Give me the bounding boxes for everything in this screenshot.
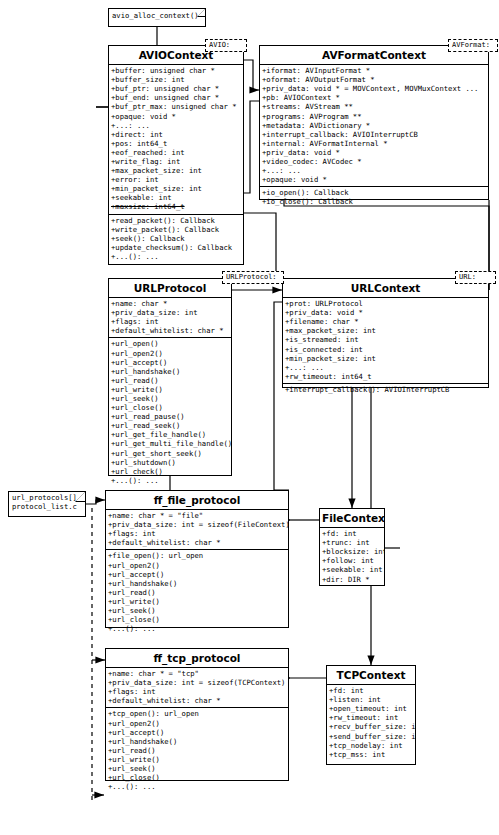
class-attribute: +flags: int <box>109 317 231 326</box>
class-aviocontext[interactable]: AVIOContext+buffer: unsigned char *+buff… <box>108 45 244 265</box>
note-fold-inner-icon <box>198 8 206 16</box>
class-operation: +read_packet(): Callback <box>109 216 243 225</box>
class-attribute: +direct: int <box>109 130 243 139</box>
class-operation: +url_get_file_handle() <box>109 430 231 439</box>
class-compartment-attributes: +name: char * = "tcp"+priv_data_size: in… <box>106 668 288 708</box>
class-attribute: +buf_ptr: unsigned char * <box>109 84 243 93</box>
class-compartment-operations: +url_open()+url_open2()+url_accept()+url… <box>109 338 231 487</box>
class-attribute: +buffer_size: int <box>109 75 243 84</box>
class-attribute: +name: char * = "file" <box>106 511 288 520</box>
note-fold-inner-icon <box>76 491 86 501</box>
class-attribute: +opaque: void * <box>109 112 243 121</box>
class-attribute: +listen: int <box>327 695 415 704</box>
class-attribute: +maxsize: int64_t <box>109 202 243 211</box>
url-protocols-note: url_protocols[] protocol_list.c <box>8 491 86 517</box>
class-operation: +url_check() <box>109 467 231 476</box>
class-attribute: +interrupt_callback: AVIOInterruptCB <box>260 130 488 139</box>
class-compartment-attributes: +name: char * = "file"+priv_data_size: i… <box>106 510 288 550</box>
class-attribute: +pos: int64_t <box>109 139 243 148</box>
class-operation: +io_open(): Callback <box>260 188 488 197</box>
class-attribute: +blocksize: int <box>320 547 384 556</box>
class-filecontext[interactable]: FileContext+fd: int+trunc: int+blocksize… <box>319 508 385 586</box>
class-operation: +url_close() <box>106 615 288 624</box>
tag-label: AVIO: <box>209 41 230 49</box>
class-title: ff_tcp_protocol <box>106 649 288 668</box>
class-attribute: +streams: AVStream ** <box>260 102 488 111</box>
class-attribute: +buffer: unsigned char * <box>109 66 243 75</box>
class-operation: +tcp_open(): url_open <box>106 709 288 718</box>
note-line: protocol_list.c <box>12 502 82 511</box>
class-attribute: +name: char * = "tcp" <box>106 669 288 678</box>
class-operation: +url_get_multi_file_handle() <box>109 439 231 448</box>
class-attribute: +send_buffer_size: int <box>327 732 415 741</box>
class-compartment-attributes: +name: char *+priv_data_size: int+flags:… <box>109 298 231 338</box>
class-operation: +url_handshake() <box>106 579 288 588</box>
class-avformatcontext[interactable]: AVFormatContext+iformat: AVInputFormat *… <box>259 45 489 200</box>
class-attribute: +priv_data: void * = MOVContext, MOVMuxC… <box>260 84 488 93</box>
class-ff-file-protocol[interactable]: ff_file_protocol+name: char * = "file"+p… <box>105 490 289 628</box>
class-operation: +url_write() <box>106 597 288 606</box>
class-attribute: +...: ... <box>260 166 488 175</box>
class-attribute: +min_packet_size: int <box>283 354 488 363</box>
class-compartment-operations: +io_open(): Callback+io_close(): Callbac… <box>260 187 488 208</box>
class-title: URLProtocol <box>109 279 231 298</box>
class-compartment-operations: +read_packet(): Callback+write_packet():… <box>109 215 243 263</box>
class-urlcontext[interactable]: URLContext+prot: URLProtocol+priv_data: … <box>282 278 489 388</box>
class-compartment-attributes: +prot: URLProtocol+priv_data: void *+fil… <box>283 298 488 384</box>
class-attribute: +default_whitelist: char * <box>106 538 288 547</box>
class-attribute: +pb: AVIOContext * <box>260 93 488 102</box>
class-attribute: +internal: AVFormatInternal * <box>260 139 488 148</box>
class-attribute: +seekable: int <box>320 565 384 574</box>
note-line: url_protocols[] <box>12 493 82 502</box>
class-attribute: +metadata: AVDictionary * <box>260 121 488 130</box>
class-operation: +url_read() <box>109 376 231 385</box>
class-operation: +url_open() <box>109 339 231 348</box>
class-attribute: +default_whitelist: char * <box>106 696 288 705</box>
class-operation: +url_close() <box>109 403 231 412</box>
class-operation: +url_get_short_seek() <box>109 449 231 458</box>
class-operation: +interrupt_callback(): AVIOInterruptCB <box>283 385 488 394</box>
class-attribute: +video_codec: AVCodec * <box>260 157 488 166</box>
class-operation: +url_shutdown() <box>109 458 231 467</box>
class-operation: +url_seek() <box>106 606 288 615</box>
avformat-package-tag: AVFormat: <box>448 39 498 52</box>
class-attribute: +flags: int <box>106 529 288 538</box>
class-attribute: +priv_data: void * <box>283 308 488 317</box>
class-attribute: +tcp_nodelay: int <box>327 741 415 750</box>
class-operation: +...(): ... <box>106 624 288 633</box>
class-operation: +file_open(): url_open <box>106 551 288 560</box>
class-attribute: +trunc: int <box>320 538 384 547</box>
class-compartment-attributes: +buffer: unsigned char *+buffer_size: in… <box>109 65 243 215</box>
class-attribute: +max_packet_size: int <box>109 166 243 175</box>
avio-package-tag: AVIO: <box>205 39 247 52</box>
class-compartment-operations: +tcp_open(): url_open+url_open2()+url_ac… <box>106 708 288 793</box>
class-operation: +url_close() <box>106 773 288 782</box>
class-tcpcontext[interactable]: TCPContext+fd: int+listen: int+open_time… <box>326 665 416 765</box>
class-operation: +url_handshake() <box>109 367 231 376</box>
class-operation: +url_accept() <box>106 570 288 579</box>
class-operation: +url_accept() <box>106 728 288 737</box>
class-operation: +...(): ... <box>109 252 243 261</box>
class-attribute: +iformat: AVInputFormat * <box>260 66 488 75</box>
class-attribute: +priv_data_size: int = sizeof(FileContex… <box>106 520 288 529</box>
urlprotocol-package-tag: URLProtocol: <box>222 271 284 284</box>
note-line: avio_alloc_context() <box>112 11 202 20</box>
class-attribute: +buf_end: unsigned char * <box>109 93 243 102</box>
class-urlprotocol[interactable]: URLProtocol+name: char *+priv_data_size:… <box>108 278 232 476</box>
class-attribute: +recv_buffer_size: int <box>327 722 415 731</box>
class-attribute: +eof_reached: int <box>109 148 243 157</box>
class-operation: +url_read() <box>106 588 288 597</box>
class-operation: +io_close(): Callback <box>260 197 488 206</box>
class-ff-tcp-protocol[interactable]: ff_tcp_protocol+name: char * = "tcp"+pri… <box>105 648 289 781</box>
class-attribute: +error: int <box>109 175 243 184</box>
class-compartment-operations: +file_open(): url_open+url_open2()+url_a… <box>106 550 288 635</box>
class-compartment-attributes: +fd: int+trunc: int+blocksize: int+follo… <box>320 528 384 586</box>
class-title: FileContext <box>320 509 384 528</box>
class-attribute: +max_packet_size: int <box>283 326 488 335</box>
class-title: ff_file_protocol <box>106 491 288 510</box>
class-attribute: +fd: int <box>320 529 384 538</box>
tag-label: AVFormat: <box>452 41 490 49</box>
class-operation: +url_read_pause() <box>109 412 231 421</box>
class-operation: +url_open2() <box>109 349 231 358</box>
diagram-canvas: avio_alloc_context() url_protocols[] pro… <box>0 0 499 835</box>
